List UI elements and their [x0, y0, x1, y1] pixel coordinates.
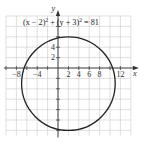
- x-tick-label: 6: [87, 70, 91, 79]
- x-tick-label: 2: [66, 70, 70, 79]
- x-tick-label: −8: [12, 70, 21, 79]
- equation-label: (x − 2)2 + (y + 3)2 = 81: [23, 17, 99, 28]
- circle-graph: −8−424681224 (x − 2)2 + (y + 3)2 = 81 y …: [0, 0, 141, 143]
- y-axis-arrow: [56, 10, 60, 16]
- x-tick-label: 8: [98, 70, 102, 79]
- y-tick-label: 2: [51, 53, 55, 62]
- x-tick-label: 12: [116, 70, 124, 79]
- x-tick-label: −4: [33, 70, 42, 79]
- x-axis-label: x: [132, 68, 137, 78]
- y-axis-label: y: [51, 3, 56, 13]
- y-tick-label: 4: [51, 43, 55, 52]
- x-tick-label: 4: [77, 70, 81, 79]
